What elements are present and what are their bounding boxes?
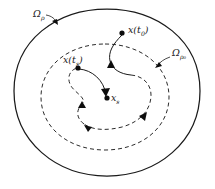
state-point-x-ts-label: x(ts) (63, 54, 83, 67)
inner-region-label-arrow-head (155, 62, 162, 68)
trajectory-segment-to-equilibrium (79, 69, 106, 95)
trajectory-arrow-head-5 (101, 88, 110, 97)
state-point-x-t0-label: x(t0) (128, 24, 149, 37)
outer-region-label-arrow-head (52, 19, 58, 25)
equilibrium-point-x-s-label: xs (111, 92, 120, 105)
x-s-subscript: s (116, 98, 119, 105)
trajectory-arrow-head-1 (107, 60, 115, 68)
inner-region-label: Ωρ₀ (171, 47, 187, 61)
equilibrium-point-x-s-dot (104, 95, 109, 100)
figure-container: Ωρ Ωρ₀ x(t0) x(ts) xs (0, 0, 215, 189)
inner-region-label-base: Ω (171, 47, 180, 58)
outer-region-label: Ωρ (32, 8, 45, 22)
region-of-attraction-figure: Ωρ Ωρ₀ x(t0) x(ts) xs (0, 0, 215, 189)
outer-region-label-subscript: ρ (40, 14, 45, 22)
trajectory-arrow-head-4 (78, 101, 86, 108)
x-t0-paren-close: ) (144, 24, 149, 35)
trajectory-segment-from-x-t0 (110, 35, 131, 75)
trajectory-segment-inner-loop (69, 68, 84, 124)
trajectory-arrow-head-3 (84, 125, 92, 132)
state-point-x-t0-dot (119, 30, 124, 35)
inner-region-label-subscript: ρ₀ (179, 53, 187, 61)
x-ts-paren-close: ) (78, 54, 83, 65)
outer-region-label-base: Ω (32, 8, 41, 19)
trajectory-arrow-head-2 (139, 112, 147, 121)
